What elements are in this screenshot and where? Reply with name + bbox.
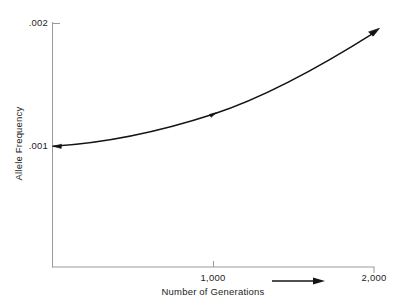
axes-group [53, 22, 375, 268]
direction-arrow-head [313, 277, 325, 284]
curve-start-marker-arrowhead [53, 144, 62, 148]
allele-frequency-curve [53, 32, 376, 146]
curve-mid-marker-arrowhead [209, 113, 216, 118]
tick-marks-group [53, 24, 375, 274]
chart-figure: .002 .001 1,000 2,000 Number of Generati… [0, 0, 394, 305]
y-axis-title: Allele Frequency [13, 100, 24, 188]
y-tick-label-002: .002 [20, 17, 48, 28]
y-tick-label-001: .001 [20, 140, 48, 151]
chart-canvas [0, 0, 394, 305]
x-tick-label-2000: 2,000 [356, 272, 392, 283]
x-tick-label-1000: 1,000 [195, 272, 231, 283]
data-series-group [53, 28, 380, 148]
x-axis-title: Number of Generations [110, 286, 316, 297]
direction-arrow-annotation [272, 277, 325, 284]
